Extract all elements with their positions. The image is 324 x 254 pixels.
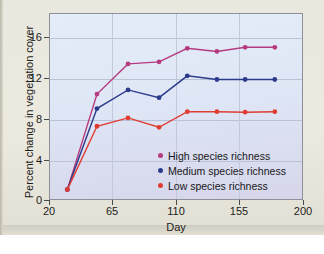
legend-marker-icon (158, 153, 163, 158)
xtick-label-110: 110 (156, 206, 196, 217)
ytick-mark-8 (44, 119, 49, 120)
x-axis-title: Day (49, 221, 303, 233)
legend-item: Medium species richness (158, 163, 286, 178)
gridline-x-65 (112, 14, 113, 199)
legend-item: High species richness (158, 148, 286, 163)
legend-item-label: Low species richness (168, 180, 268, 192)
page-left-edge (0, 0, 3, 235)
chart-figure: 16 12 8 4 0 20 65 110 155 200 Day Percen… (0, 0, 324, 254)
legend-item-label: Medium species richness (168, 165, 286, 177)
legend-item-label: High species richness (168, 150, 270, 162)
xtick-label-20: 20 (29, 206, 69, 217)
xtick-label-155: 155 (219, 206, 259, 217)
ytick-mark-12 (44, 78, 49, 79)
y-axis-title: Percent change in vegetation cover (23, 22, 35, 202)
legend-marker-icon (158, 183, 163, 188)
xtick-label-200: 200 (283, 206, 323, 217)
ytick-mark-4 (44, 160, 49, 161)
chart-legend: High species richnessMedium species rich… (158, 148, 286, 193)
legend-marker-icon (158, 168, 163, 173)
ytick-mark-16 (44, 37, 49, 38)
xtick-label-65: 65 (92, 206, 132, 217)
legend-item: Low species richness (158, 178, 286, 193)
